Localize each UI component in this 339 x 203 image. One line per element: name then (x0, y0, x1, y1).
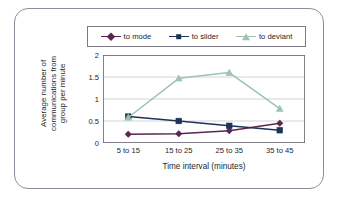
series-line-to-deviant (128, 73, 280, 118)
data-point-to-mode-0 (125, 131, 131, 137)
x-axis-tick-label: 15 to 25 (165, 146, 192, 155)
x-axis-tick-label: 5 to 15 (117, 146, 140, 155)
legend-entry-to-deviant: to deviant (236, 32, 292, 42)
y-axis-tick-label: 1 (95, 95, 99, 104)
y-axis-tick-label: 0.5 (88, 117, 99, 126)
triangle-marker-icon (242, 33, 250, 40)
y-axis-title-line-2: communications from (48, 29, 58, 157)
y-axis-tick-label: 1.5 (88, 73, 99, 82)
y-axis-title-line-3: group per minute (58, 29, 68, 157)
plot-area (103, 55, 305, 143)
chart-plot-svg (103, 55, 305, 143)
diamond-marker-icon (106, 32, 115, 41)
legend-key-to-slider-icon (169, 32, 189, 42)
x-axis-title: Time interval (minutes) (103, 162, 305, 171)
series-line-to-slider (128, 117, 280, 131)
legend-label-to-slider: to slider (192, 32, 219, 41)
legend-key-to-deviant-icon (236, 32, 256, 42)
legend-entry-to-slider: to slider (169, 32, 219, 42)
legend-label-to-deviant: to deviant (259, 32, 292, 41)
legend-label-to-mode: to mode (124, 32, 152, 41)
data-point-to-slider-3 (277, 127, 283, 133)
data-point-to-mode-1 (176, 131, 182, 137)
x-axis-tick-label: 35 to 45 (266, 146, 293, 155)
data-point-to-slider-1 (176, 118, 182, 124)
x-axis-tick-label: 25 to 35 (216, 146, 243, 155)
square-marker-icon (176, 34, 182, 40)
y-axis-title-text: Average number of communications from gr… (39, 29, 68, 157)
legend-entry-to-mode: to mode (101, 32, 152, 42)
y-axis-tick-label: 2 (95, 51, 99, 60)
chart-figure: to mode to slider to deviant Average num… (0, 0, 339, 203)
x-axis-tick-labels: 5 to 1515 to 2525 to 3535 to 45 (103, 146, 305, 160)
y-axis-tick-labels: 00.511.52 (78, 55, 99, 143)
y-axis-tick-label: 0 (95, 139, 99, 148)
y-axis-title-line-1: Average number of (39, 29, 49, 157)
y-axis-title: Average number of communications from gr… (30, 35, 76, 163)
chart-legend: to mode to slider to deviant (87, 26, 306, 47)
legend-key-to-mode-icon (101, 32, 121, 42)
data-point-to-slider-2 (226, 123, 232, 129)
